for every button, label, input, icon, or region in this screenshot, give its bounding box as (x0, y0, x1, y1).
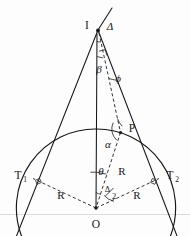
right-tangent-line (98, 30, 177, 236)
vertex-dot-p (119, 131, 122, 134)
label-angle-phi: ϕ (115, 72, 121, 84)
label-angle-delta: Δ (106, 20, 113, 32)
left-tangent-line (17, 30, 99, 236)
vertex-dot-apex (96, 29, 100, 33)
label-half-delta-numerator: Δ (105, 184, 111, 194)
geometry-diagram: I Δ β ϕ P α θ R R R Δ 2 T 1 T (0, 0, 190, 236)
diagram-canvas: I Δ β ϕ P α θ R R R Δ 2 T 1 T (0, 0, 190, 236)
angle-arc-beta (97, 57, 103, 58)
label-half-delta-denominator: 2 (112, 191, 116, 201)
label-point-o: O (92, 218, 100, 230)
label-point-t2: T 2 (166, 169, 179, 184)
label-radius-ot2: R (133, 189, 141, 201)
label-angle-alpha: α (105, 138, 111, 150)
label-point-t1-subscript: 1 (23, 175, 27, 184)
label-angle-theta: θ (98, 165, 104, 177)
label-point-t2-base: T (166, 169, 173, 181)
label-point-t1-base: T (14, 169, 21, 181)
label-half-delta: Δ 2 (105, 184, 116, 201)
center-axis-line (96, 34, 97, 208)
label-point-p: P (129, 122, 135, 134)
label-radius-op: R (118, 165, 126, 177)
vertex-dot-origin (94, 206, 97, 209)
label-point-t2-subscript: 2 (175, 175, 179, 184)
label-angle-beta: β (95, 63, 102, 75)
label-radius-ot1: R (57, 189, 65, 201)
label-point-i: I (85, 19, 89, 31)
